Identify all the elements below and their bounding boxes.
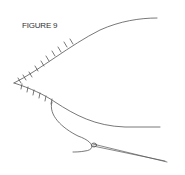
suture-thread — [51, 102, 91, 152]
lower-wound-edge — [14, 83, 160, 127]
suture-illustration — [0, 0, 185, 175]
suture-needle — [93, 144, 167, 162]
upper-wound-edge — [14, 18, 157, 83]
